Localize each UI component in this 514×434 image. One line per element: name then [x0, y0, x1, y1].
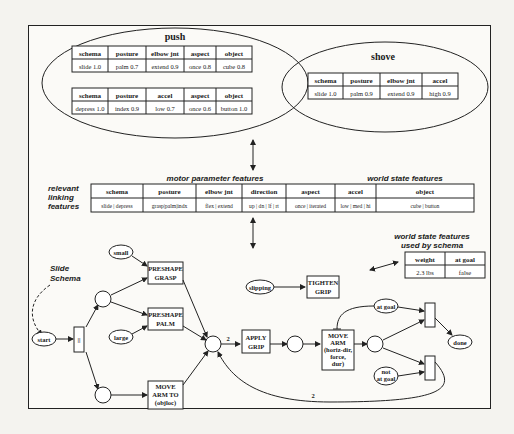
shove-title: shove: [371, 51, 395, 62]
value-cell: extend 0.9: [387, 90, 414, 97]
header-cell: accel: [348, 188, 363, 196]
action-label: GRASP: [154, 274, 176, 281]
push-table-2: schema posture accel aspect object depre…: [72, 88, 252, 114]
value-cell: cube | button: [411, 203, 440, 209]
push-cluster: push schema posture elbow jnt aspect obj…: [42, 28, 308, 138]
value-cell: 2.3 lbs: [416, 269, 434, 276]
value-cell: slide 1.0: [314, 90, 336, 97]
at-goal-label: at goal: [377, 303, 396, 310]
header-cell: accel: [158, 92, 173, 100]
value-cell: up | dn | lf | rt: [249, 203, 279, 209]
schema-label: Schema: [50, 274, 81, 283]
header-cell: weight: [415, 256, 436, 264]
not-at-goal-label: at goal: [377, 375, 396, 382]
push-title: push: [165, 31, 186, 42]
world-state-used-label: world state features: [394, 232, 470, 241]
value-cell: high 0.9: [429, 90, 450, 97]
header-cell: posture: [116, 92, 138, 100]
value-cell: depress 1.0: [75, 105, 104, 112]
header-cell: direction: [251, 188, 278, 196]
value-cell: button 1.0: [221, 105, 247, 112]
action-label: force,: [330, 353, 346, 360]
small-label: small: [114, 249, 129, 256]
value-cell: low 0.7: [155, 105, 175, 112]
start-label: start: [38, 336, 52, 343]
place-node: [367, 336, 383, 352]
action-label: PRESHAPE: [148, 311, 183, 318]
action-label: MOVE: [155, 383, 175, 390]
shove-cluster: shove schema posture elbow jnt accel sli…: [282, 42, 488, 132]
value-cell: once 0.8: [189, 63, 211, 70]
arc-weight: 2: [311, 392, 314, 399]
action-label: ARM: [330, 339, 346, 346]
value-cell: palm 0.7: [116, 63, 139, 70]
push-ellipse: [42, 28, 308, 138]
value-cell: palm 0.9: [350, 90, 373, 97]
place-node: [287, 336, 303, 352]
header-cell: schema: [79, 50, 102, 58]
value-cell: grasp|palm|indx: [152, 203, 188, 209]
transition-bar: [425, 356, 435, 380]
world-state-table: world state features used by schema weig…: [370, 232, 485, 278]
header-cell: aspect: [191, 92, 210, 100]
place-node: [95, 291, 111, 307]
action-label: PRESHAPE: [148, 265, 183, 272]
action-label: PALM: [156, 320, 175, 327]
action-label: APPLY: [245, 334, 266, 341]
value-cell: once 0.6: [189, 105, 212, 112]
value-cell: once | iterated: [295, 203, 326, 209]
value-cell: flex | extend: [205, 203, 233, 209]
linking-label: linking: [48, 193, 74, 202]
dashed-arrow: [32, 285, 50, 335]
transition-bar: [425, 303, 435, 327]
motor-parameter-label: motor parameter features: [167, 174, 264, 183]
header-cell: posture: [116, 50, 138, 58]
place-node: [205, 336, 221, 352]
header-cell: elbow jnt: [205, 188, 233, 196]
value-cell: extend 0.9: [151, 63, 178, 70]
header-cell: object: [416, 188, 435, 196]
value-cell: slide 1.0: [79, 63, 101, 70]
action-label: TIGHTEN: [308, 279, 339, 286]
value-cell: low | med | hi: [340, 203, 371, 209]
diagram-canvas: push schema posture elbow jnt aspect obj…: [0, 0, 514, 434]
linking-label: features: [48, 202, 80, 211]
value-cell: slide | depress: [101, 203, 132, 209]
action-label: GRIP: [248, 343, 264, 350]
slipping-label: slipping: [249, 284, 272, 291]
value-cell: index 0.9: [115, 105, 139, 112]
value-cell: cube 0.8: [223, 63, 245, 70]
header-cell: schema: [106, 188, 129, 196]
double-arrow-icon: [370, 262, 398, 270]
schema-label: Slide: [50, 264, 70, 273]
linking-features: relevant linking features motor paramete…: [48, 174, 474, 212]
not-at-goal-label: not: [381, 368, 391, 375]
value-cell: false: [459, 269, 471, 276]
action-label: MOVE: [328, 332, 348, 339]
parallel-label: ||: [78, 336, 81, 343]
header-cell: schema: [79, 92, 102, 100]
header-cell: aspect: [191, 50, 210, 58]
header-cell: aspect: [301, 188, 320, 196]
header-cell: schema: [314, 77, 337, 85]
done-label: done: [453, 339, 466, 346]
linking-label: relevant: [48, 184, 79, 193]
action-label: (objloc): [155, 399, 176, 407]
action-label: ARM TO: [152, 391, 178, 398]
header-cell: at goal: [455, 256, 475, 264]
header-cell: elbow jnt: [387, 77, 415, 85]
world-state-used-label: used by schema: [401, 241, 464, 250]
arc-weight: 2: [226, 335, 229, 342]
world-state-label: world state features: [367, 174, 443, 183]
action-label: GRIP: [315, 288, 331, 295]
action-label: dur): [332, 360, 344, 368]
place-node: [95, 387, 111, 403]
header-cell: object: [225, 92, 244, 100]
inhibitor-arc: [337, 306, 374, 329]
header-cell: posture: [158, 188, 180, 196]
push-table-1: schema posture elbow jnt aspect object s…: [72, 46, 252, 72]
header-cell: accel: [433, 77, 448, 85]
header-cell: elbow jnt: [151, 50, 179, 58]
header-cell: posture: [350, 77, 372, 85]
large-label: large: [114, 334, 128, 341]
